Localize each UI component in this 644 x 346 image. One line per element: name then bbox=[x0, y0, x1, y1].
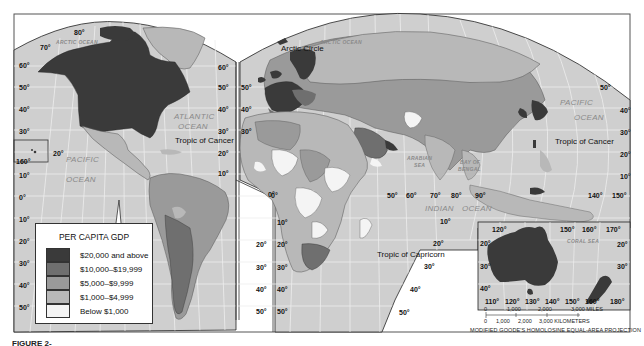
lon-label: 90° bbox=[475, 192, 486, 199]
lat-label: 20° bbox=[617, 241, 628, 248]
label-arctic-circle: Arctic Circle bbox=[281, 45, 324, 53]
lat-label: 30° bbox=[19, 128, 30, 135]
lat-label: 10° bbox=[277, 219, 288, 226]
lat-label: 30° bbox=[617, 263, 628, 270]
lat-label: 30° bbox=[218, 128, 229, 135]
ocean-label-pacific-east: PACIFIC bbox=[560, 99, 593, 107]
lat-label: 40° bbox=[620, 107, 631, 114]
scale-km-2000: 2,000 bbox=[518, 318, 532, 324]
lon-label: 50° bbox=[387, 192, 398, 199]
lon-label: 120° bbox=[492, 226, 506, 233]
lat-label: 40° bbox=[480, 285, 491, 292]
legend-item: $20,000 and above bbox=[46, 248, 149, 262]
lat-label: 20° bbox=[218, 150, 229, 157]
legend-title: PER CAPITA GDP bbox=[36, 232, 152, 242]
legend-swatch bbox=[46, 276, 70, 290]
lon-label: 120° bbox=[505, 298, 519, 305]
lat-label: 50° bbox=[399, 309, 410, 316]
lat-label: 50° bbox=[19, 304, 30, 311]
lon-label: 170° bbox=[606, 226, 620, 233]
figure-caption: FIGURE 2- bbox=[12, 339, 52, 346]
lon-label: 80° bbox=[451, 192, 462, 199]
lat-label: 0° bbox=[19, 194, 26, 201]
scale-miles-0: 0 bbox=[484, 306, 487, 312]
lat-label: 40° bbox=[241, 106, 252, 113]
lon-label: 70° bbox=[430, 192, 441, 199]
legend-label: Below $1,000 bbox=[80, 307, 128, 316]
scale-miles-2000: 2,000 bbox=[538, 306, 552, 312]
lat-label: 10° bbox=[440, 218, 451, 225]
lon-label: 160° bbox=[582, 226, 596, 233]
lon-label: 60° bbox=[406, 192, 417, 199]
ocean-label-bengal: BENGAL bbox=[458, 167, 481, 172]
scale-km-0: 0 bbox=[484, 318, 487, 324]
lon-label: 180° bbox=[610, 298, 624, 305]
scale-km-3000: 3,000 KILOMETERS bbox=[539, 318, 590, 324]
lat-label: 20° bbox=[53, 150, 64, 157]
label-tropic-of-cancer-west: Tropic of Cancer bbox=[175, 137, 234, 145]
lat-label: 60° bbox=[218, 64, 229, 71]
lat-label: 50° bbox=[600, 84, 611, 91]
ocean-label-atlantic: ATLANTIC bbox=[174, 113, 214, 121]
lat-label: 40° bbox=[256, 286, 267, 293]
lat-label: 20° bbox=[277, 241, 288, 248]
lat-label: 30° bbox=[277, 264, 288, 271]
lat-label: 40° bbox=[277, 286, 288, 293]
lon-label: 150° bbox=[565, 298, 579, 305]
lon-label: 140° bbox=[588, 192, 602, 199]
ocean-label-arctic: ARCTIC OCEAN bbox=[56, 40, 98, 45]
lat-label: 20° bbox=[433, 240, 444, 247]
lat-label: 30° bbox=[256, 264, 267, 271]
lon-label: 0° bbox=[271, 192, 278, 199]
lat-label: 30° bbox=[241, 128, 252, 135]
lat-label: 40° bbox=[218, 106, 229, 113]
lat-label: 50° bbox=[277, 308, 288, 315]
legend-label: $10,000–$19,999 bbox=[80, 265, 142, 274]
lon-label: 130° bbox=[525, 298, 539, 305]
ocean-label-arabian: SEA bbox=[414, 163, 425, 168]
lat-label: 20° bbox=[19, 238, 30, 245]
lat-label: 20° bbox=[480, 240, 491, 247]
legend-swatch bbox=[46, 248, 70, 262]
lat-label: 40° bbox=[19, 106, 30, 113]
lon-label: 150° bbox=[612, 192, 626, 199]
lat-label: 10° bbox=[218, 170, 229, 177]
lat-label: 60° bbox=[19, 62, 30, 69]
lat-label: 20° bbox=[620, 151, 631, 158]
lat-label: 30° bbox=[480, 263, 491, 270]
lat-label: 50° bbox=[241, 84, 252, 91]
lat-label: 40° bbox=[19, 282, 30, 289]
lon-label: 160° bbox=[585, 298, 599, 305]
lon-label: 80° bbox=[74, 29, 85, 36]
lat-label: 40° bbox=[410, 286, 421, 293]
ocean-label-arctic-east: ARCTIC OCEAN bbox=[320, 40, 362, 45]
ocean-label-indian: INDIAN bbox=[425, 205, 454, 213]
label-tropic-of-capricorn: Tropic of Capricorn bbox=[377, 251, 445, 259]
lon-label: 110° bbox=[485, 298, 499, 305]
legend-label: $20,000 and above bbox=[80, 251, 149, 260]
ocean-label-coral: CORAL SEA bbox=[567, 239, 599, 244]
lon-label: 140° bbox=[545, 298, 559, 305]
legend-swatch bbox=[46, 304, 70, 318]
lat-label: 50° bbox=[19, 84, 30, 91]
legend-item: $1,000–$4,999 bbox=[46, 290, 133, 304]
legend-swatch bbox=[46, 290, 70, 304]
ocean-label-bengal: BAY OF bbox=[460, 160, 480, 165]
lat-label: 30° bbox=[424, 263, 435, 270]
lat-label: 30° bbox=[19, 260, 30, 267]
scale-miles-1000: 1,000 bbox=[507, 306, 521, 312]
lat-label: 50° bbox=[256, 308, 267, 315]
legend: PER CAPITA GDP $20,000 and above $10,000… bbox=[35, 223, 153, 324]
lat-label: 10° bbox=[19, 216, 30, 223]
ocean-label-pacific-west: OCEAN bbox=[66, 176, 96, 184]
ocean-label-pacific-east: OCEAN bbox=[574, 114, 604, 122]
label-tropic-of-cancer-east: Tropic of Cancer bbox=[555, 138, 614, 146]
legend-label: $1,000–$4,999 bbox=[80, 293, 133, 302]
scale-miles-3000: 3,000 MILES bbox=[571, 306, 603, 312]
ocean-label-pacific-west: PACIFIC bbox=[66, 156, 99, 164]
lat-label: 10° bbox=[620, 173, 631, 180]
lat-label: 50° bbox=[218, 84, 229, 91]
lat-label: 10° bbox=[19, 172, 30, 179]
legend-item: $10,000–$19,999 bbox=[46, 262, 142, 276]
ocean-label-arabian: ARABIAN bbox=[407, 156, 432, 161]
